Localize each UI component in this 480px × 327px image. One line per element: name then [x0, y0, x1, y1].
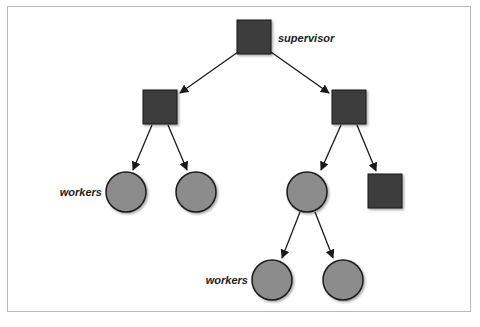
edge-root-to-sup-left [180, 52, 238, 93]
worker-node-3 [287, 172, 327, 212]
supervisor-label: supervisor [278, 32, 335, 44]
edge-sup-right-to-sup-leaf [357, 125, 376, 171]
worker-node-2 [176, 172, 216, 212]
edge-sup-left-to-worker-1 [133, 125, 152, 170]
supervisor-node-right [332, 90, 366, 124]
supervisor-node-root [237, 20, 271, 54]
edge-sup-right-to-worker-3 [321, 125, 341, 170]
edge-root-to-sup-right [271, 52, 329, 93]
edge-sup-left-to-worker-2 [168, 125, 187, 170]
workers-label-bottom: workers [206, 274, 248, 286]
worker-node-1 [106, 172, 146, 212]
edges [133, 52, 376, 258]
worker-node-5 [323, 260, 363, 300]
supervisor-node-left [143, 90, 177, 124]
supervisor-node-leaf [368, 174, 402, 208]
workers-label-top: workers [60, 186, 102, 198]
worker-node-4 [252, 260, 292, 300]
edge-worker-3-to-worker-4 [282, 212, 300, 258]
edge-worker-3-to-worker-5 [315, 212, 333, 258]
supervision-tree-diagram: supervisor workers workers [0, 0, 480, 327]
